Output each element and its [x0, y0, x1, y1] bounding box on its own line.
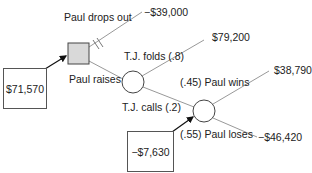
ev-box-decision: $71,570	[3, 68, 47, 109]
arrow-ev-decision	[45, 56, 66, 69]
ev-box-showdown: −$7,630	[127, 131, 174, 172]
payoff-paul-wins: $38,790	[274, 64, 312, 76]
label-paul-loses: (.55) Paul loses	[180, 128, 253, 140]
label-tj-calls: T.J. calls (.2)	[122, 101, 181, 113]
label-tj-folds: T.J. folds (.8)	[124, 50, 184, 62]
chance-node-tj	[122, 71, 144, 93]
label-paul-wins: (.45) Paul wins	[180, 76, 249, 88]
decision-node	[68, 43, 89, 64]
payoff-drop-out: −$39,000	[144, 6, 188, 18]
label-paul-drops-out: Paul drops out	[64, 11, 132, 23]
payoff-tj-folds: $79,200	[212, 31, 250, 43]
payoff-paul-loses: −$46,420	[258, 131, 302, 143]
label-paul-raises: Paul raises	[69, 73, 121, 85]
chance-node-showdown	[193, 100, 215, 122]
